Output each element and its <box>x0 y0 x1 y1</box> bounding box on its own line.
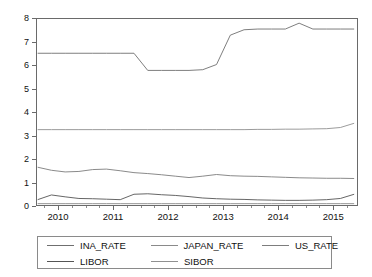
legend-row: LIBORSIBOR <box>38 254 331 269</box>
legend-label: LIBOR <box>80 257 109 267</box>
x-tick-label: 2011 <box>103 212 123 222</box>
legend-entry-libor[interactable]: LIBOR <box>38 254 142 269</box>
series-line-ina_rate <box>38 23 355 70</box>
x-tick-minor <box>141 206 142 208</box>
series-line-us_rate <box>38 167 355 178</box>
x-tick-minor <box>86 206 87 208</box>
legend-line-swatch <box>151 261 178 262</box>
x-tick-label: 2012 <box>158 212 179 222</box>
y-tick-label: 6 <box>24 61 29 70</box>
chart-legend: INA_RATEJAPAN_RATEUS_RATELIBORSIBOR <box>37 236 332 269</box>
legend-entry-japan_rate[interactable]: JAPAN_RATE <box>142 238 253 253</box>
x-tick-mark <box>278 206 279 210</box>
y-tick-label: 5 <box>24 84 29 93</box>
x-tick-mark <box>168 206 169 210</box>
x-tick-minor <box>182 206 183 208</box>
y-tick-label: 0 <box>24 202 29 211</box>
series-line-libor <box>38 194 355 201</box>
x-tick-minor <box>44 206 45 208</box>
x-tick-minor <box>306 206 307 208</box>
x-tick-label: 2013 <box>213 212 234 222</box>
y-tick-label: 2 <box>24 155 29 164</box>
legend-row: INA_RATEJAPAN_RATEUS_RATE <box>38 238 331 253</box>
x-tick-minor <box>292 206 293 208</box>
x-tick-label: 2010 <box>47 212 68 222</box>
y-tick-label: 8 <box>24 14 29 23</box>
x-tick-minor <box>127 206 128 208</box>
y-tick-label: 1 <box>24 178 29 187</box>
legend-entry-sibor[interactable]: SIBOR <box>142 254 254 269</box>
x-tick-mark <box>113 206 114 210</box>
x-tick-minor <box>209 206 210 208</box>
x-axis: 201020112012201320142015 <box>36 206 358 228</box>
legend-line-swatch <box>262 245 289 246</box>
legend-entry-us_rate[interactable]: US_RATE <box>253 238 331 253</box>
legend-entry-ina_rate[interactable]: INA_RATE <box>38 238 142 253</box>
legend-label: US_RATE <box>295 241 338 251</box>
x-tick-label: 2015 <box>323 212 344 222</box>
x-tick-label: 2014 <box>268 212 289 222</box>
x-tick-minor <box>264 206 265 208</box>
x-tick-minor <box>99 206 100 208</box>
y-axis: 012345678 <box>0 0 36 207</box>
legend-line-swatch <box>151 245 178 246</box>
y-tick-label: 4 <box>24 108 29 117</box>
y-tick-label: 7 <box>24 37 29 46</box>
x-tick-minor <box>72 206 73 208</box>
x-tick-minor <box>251 206 252 208</box>
x-tick-mark <box>333 206 334 210</box>
legend-line-swatch <box>47 261 74 262</box>
series-lines <box>36 18 358 206</box>
series-line-sibor <box>38 123 355 129</box>
x-tick-minor <box>347 206 348 208</box>
x-tick-minor <box>154 206 155 208</box>
x-tick-mark <box>223 206 224 210</box>
legend-label: JAPAN_RATE <box>184 241 244 251</box>
plot-area <box>36 18 358 206</box>
legend-label: SIBOR <box>184 257 214 267</box>
x-tick-minor <box>319 206 320 208</box>
x-tick-minor <box>196 206 197 208</box>
x-tick-minor <box>237 206 238 208</box>
chart-screenshot: 012345678 201020112012201320142015 INA_R… <box>0 0 372 277</box>
x-tick-mark <box>58 206 59 210</box>
y-tick-label: 3 <box>24 131 29 140</box>
legend-line-swatch <box>47 245 74 246</box>
legend-label: INA_RATE <box>80 241 126 251</box>
